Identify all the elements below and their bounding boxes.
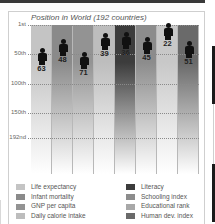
- legend-label: Daily calorie intake: [31, 212, 86, 219]
- legend-swatch: [16, 204, 25, 210]
- y-tick-label: 100th: [2, 80, 26, 86]
- legend-label: Human dev. index: [141, 212, 193, 219]
- legend-swatch: [126, 204, 135, 210]
- legend-item: Infant mortality: [16, 192, 74, 201]
- rank-marker: 48: [52, 39, 73, 64]
- legend-label: Schooling index: [141, 193, 187, 200]
- rank-value: 39: [94, 50, 115, 58]
- legend-label: Infant mortality: [31, 193, 74, 200]
- legend-label: Life expectancy: [31, 183, 76, 190]
- rank-value: 63: [31, 65, 52, 73]
- rank-marker: 71: [73, 52, 94, 77]
- legend-item: Schooling index: [126, 192, 187, 201]
- legend-swatch: [16, 213, 25, 219]
- chart-title: Position in World (192 countries): [31, 13, 147, 22]
- y-tick-label: 50th: [2, 50, 26, 56]
- top-divider-bar: [0, 0, 205, 3]
- legend-label: GNP per capita: [31, 202, 75, 209]
- bar-column: [73, 25, 94, 174]
- gridline: [28, 138, 199, 139]
- rank-value: 48: [52, 56, 73, 64]
- legend-swatch: [16, 184, 25, 190]
- legend-label: Literacy: [141, 183, 164, 190]
- legend-label: Educational rank: [141, 202, 189, 209]
- gridline: [28, 84, 199, 85]
- legend-item: Daily calorie intake: [16, 211, 86, 220]
- rank-value: 45: [136, 54, 157, 62]
- y-tick-label: 150th: [2, 109, 26, 115]
- legend-swatch: [126, 184, 135, 190]
- person-icon: [142, 37, 152, 54]
- gridline: [28, 113, 199, 114]
- legend-swatch: [126, 194, 135, 200]
- rank-value: 22: [157, 40, 178, 48]
- rank-marker: 51: [178, 41, 199, 66]
- person-icon: [184, 41, 194, 58]
- legend-item: GNP per capita: [16, 201, 75, 210]
- person-icon: [37, 48, 47, 65]
- rank-value: 51: [178, 58, 199, 66]
- legend-item: Life expectancy: [16, 182, 76, 191]
- person-icon: [121, 32, 131, 49]
- legend-swatch: [16, 194, 25, 200]
- y-tick-label: 1st: [2, 21, 26, 27]
- legend: Life expectancyInfant mortalityGNP per c…: [16, 182, 201, 222]
- legend-item: Educational rank: [126, 201, 189, 210]
- rank-value: 36: [115, 49, 136, 57]
- rank-value: 71: [73, 69, 94, 77]
- plot-area: 6348713936452251: [31, 25, 199, 174]
- rank-marker: 39: [94, 33, 115, 58]
- rank-marker: 63: [31, 48, 52, 73]
- person-icon: [163, 23, 173, 40]
- rank-marker: 45: [136, 37, 157, 62]
- right-edge-bar-lower: [212, 164, 215, 222]
- legend-item: Human dev. index: [126, 211, 193, 220]
- rank-marker: 36: [115, 32, 136, 57]
- person-icon: [58, 39, 68, 56]
- right-edge-bar-upper: [212, 46, 215, 104]
- rank-marker: 22: [157, 23, 178, 48]
- legend-item: Literacy: [126, 182, 164, 191]
- y-tick-label: 192nd: [2, 134, 26, 140]
- legend-swatch: [126, 213, 135, 219]
- person-icon: [100, 33, 110, 50]
- left-edge-line: [0, 200, 1, 224]
- right-edge-line: [213, 104, 214, 164]
- person-icon: [79, 52, 89, 69]
